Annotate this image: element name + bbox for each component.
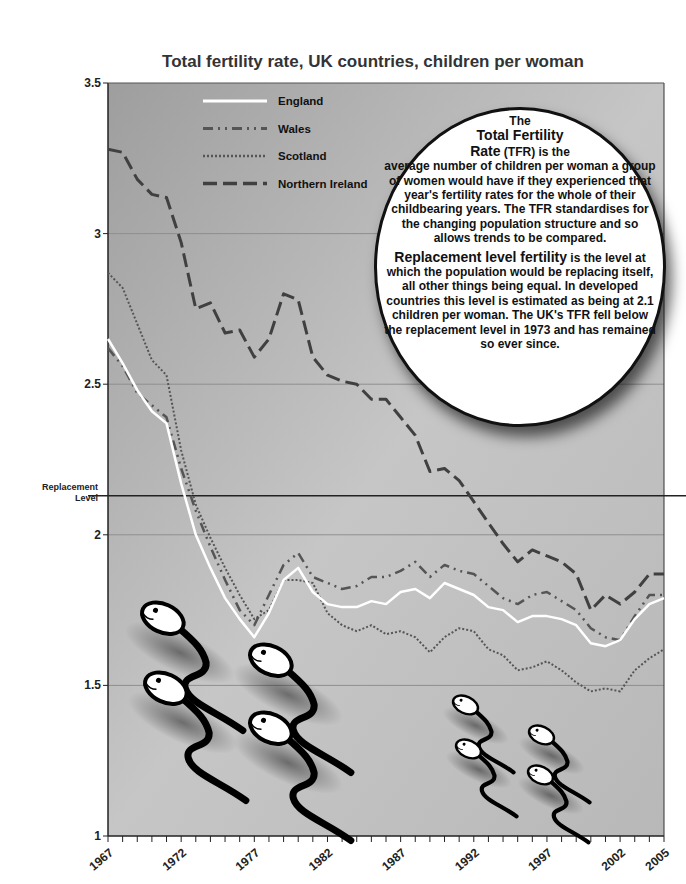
- x-tick-label: 1992: [452, 845, 482, 873]
- y-tick-label: 1: [94, 829, 101, 843]
- legend-label: Wales: [278, 123, 311, 135]
- x-tick-label: 1972: [160, 845, 190, 873]
- x-tick-label: 1987: [379, 845, 409, 873]
- y-tick-label: 2.5: [84, 377, 101, 391]
- bubble-replacement-definition: is the level at which the population wou…: [384, 251, 655, 351]
- bubble-is-the: is the: [535, 145, 570, 159]
- y-tick-label: 2: [94, 528, 101, 542]
- x-tick-label: 2002: [599, 845, 629, 873]
- legend-label: Northern Ireland: [278, 178, 367, 190]
- legend-label: Scotland: [278, 150, 327, 162]
- bubble-tfr-abbrev: (TFR): [504, 145, 535, 159]
- y-tick-label: 1.5: [84, 678, 101, 692]
- bubble-tfr-definition: average number of children per woman a g…: [384, 159, 655, 245]
- y-tick-label: 3.5: [84, 76, 101, 90]
- bubble-heading-tfr: Total Fertility: [477, 127, 564, 143]
- legend-label: England: [278, 95, 323, 107]
- replacement-label: Replacement: [42, 482, 98, 492]
- x-tick-label: 2005: [642, 845, 672, 873]
- y-tick-label: 3: [94, 227, 101, 241]
- x-tick-label: 1982: [306, 845, 336, 873]
- bubble-the: The: [509, 114, 530, 128]
- replacement-label: Level: [75, 493, 98, 503]
- x-tick-label: 1967: [86, 845, 116, 873]
- bubble-rate: Rate: [470, 143, 500, 159]
- x-tick-label: 1977: [233, 845, 263, 873]
- x-tick-label: 1997: [525, 845, 555, 873]
- bubble-heading-replacement: Replacement level fertility: [394, 249, 567, 265]
- info-bubble-text: The Total Fertility Rate (TFR) is the av…: [384, 114, 656, 356]
